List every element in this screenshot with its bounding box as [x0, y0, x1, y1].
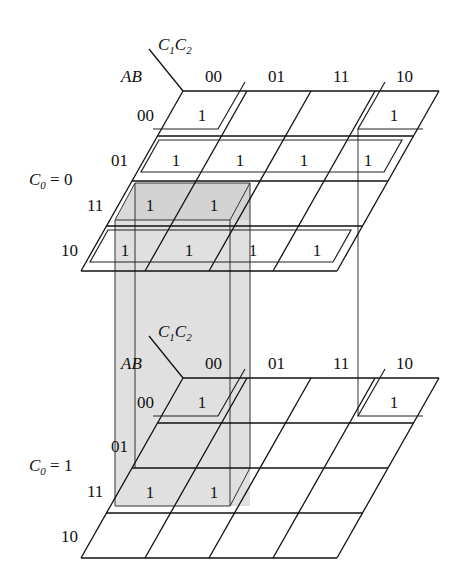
- row-header: 10: [61, 241, 78, 260]
- shaded-group-box: [115, 183, 250, 506]
- svg-text:1: 1: [210, 483, 219, 502]
- svg-text:1: 1: [198, 106, 207, 125]
- col-header: 00: [205, 354, 222, 373]
- svg-text:1: 1: [146, 196, 155, 215]
- svg-text:1: 1: [146, 483, 155, 502]
- svg-text:1: 1: [390, 393, 399, 412]
- row-header: 11: [87, 482, 103, 501]
- col-header: 11: [333, 354, 349, 373]
- svg-text:1: 1: [313, 241, 322, 260]
- svg-text:1: 1: [185, 241, 194, 260]
- col-header: 01: [268, 67, 285, 86]
- svg-text:1: 1: [236, 151, 245, 170]
- layer-label-c0-1: C0 = 1: [29, 456, 72, 477]
- row-var-label-bottom: AB: [120, 354, 142, 373]
- row-header: 00: [137, 106, 154, 125]
- svg-text:1: 1: [364, 151, 373, 170]
- row-header: 01: [111, 437, 128, 456]
- col-header: 01: [268, 354, 285, 373]
- row-header: 00: [137, 393, 154, 412]
- row-header: 11: [87, 196, 103, 215]
- col-header: 10: [396, 354, 413, 373]
- row-header: 01: [111, 151, 128, 170]
- svg-text:1: 1: [198, 393, 207, 412]
- svg-text:1: 1: [390, 106, 399, 125]
- svg-text:1: 1: [249, 241, 258, 260]
- karnaugh-map-diagram: C1C2 AB 00 01 11 10 00 01 11 10 C0 = 0 1…: [0, 0, 460, 585]
- col-header: 00: [205, 67, 222, 86]
- row-var-label-top: AB: [120, 67, 142, 86]
- col-header: 11: [333, 67, 349, 86]
- svg-text:1: 1: [210, 196, 219, 215]
- row-header: 10: [61, 527, 78, 546]
- layer-label-c0-0: C0 = 0: [29, 170, 72, 191]
- col-var-label-top: C1C2: [158, 35, 192, 56]
- svg-text:1: 1: [121, 241, 130, 260]
- svg-text:1: 1: [172, 151, 181, 170]
- svg-text:1: 1: [300, 151, 309, 170]
- col-header: 10: [396, 67, 413, 86]
